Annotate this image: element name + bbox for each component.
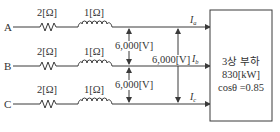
line-c: C 2[Ω] 1[Ω] Ic <box>4 84 210 110</box>
node-c-label: C <box>4 98 11 110</box>
current-c-label: Ic <box>189 91 196 103</box>
node-a-label: A <box>4 21 12 33</box>
inductor-a-icon <box>78 21 112 27</box>
reactance-b-label: 1[Ω] <box>84 46 104 57</box>
resistance-b-label: 2[Ω] <box>37 46 57 57</box>
current-b-label: Ib <box>191 53 199 65</box>
line-a: A 2[Ω] 1[Ω] Ia <box>4 7 210 33</box>
reactance-c-label: 1[Ω] <box>84 84 104 95</box>
voltage-ab-label: 6,000[V] <box>115 40 153 51</box>
load-title: 3상 부하 <box>222 55 260 67</box>
inductor-c-icon <box>78 98 112 104</box>
load-power: 830[kW] <box>222 69 260 80</box>
voltage-bc-indicator: 6,000[V] <box>115 68 153 102</box>
resistance-c-label: 2[Ω] <box>37 84 57 95</box>
current-a-label: Ia <box>189 14 197 26</box>
three-phase-circuit-diagram: A 2[Ω] 1[Ω] Ia B 2[Ω] 1[Ω] Ib C <box>0 0 280 132</box>
inductor-b-icon <box>78 60 112 66</box>
voltage-ac-label: 6,000[V] <box>152 54 190 65</box>
three-phase-load: 3상 부하 830[kW] cosθ =0.85 <box>210 10 272 121</box>
node-b-label: B <box>4 60 11 72</box>
load-power-factor: cosθ =0.85 <box>218 82 264 93</box>
reactance-a-label: 1[Ω] <box>84 7 104 18</box>
voltage-ab-indicator: 6,000[V] <box>115 29 153 64</box>
resistor-b-icon <box>40 62 62 70</box>
resistance-a-label: 2[Ω] <box>37 7 57 18</box>
resistor-a-icon <box>40 23 62 31</box>
voltage-bc-label: 6,000[V] <box>115 79 153 90</box>
resistor-c-icon <box>40 100 62 108</box>
